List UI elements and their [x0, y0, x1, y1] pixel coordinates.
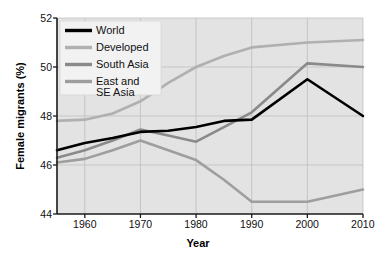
y-axis-title: Female migrants (%): [14, 62, 26, 170]
y-tick-label-44: 44: [40, 208, 52, 220]
line-chart: 44 46 48 50 52 1960 1970 1980 1990 2000 …: [0, 0, 384, 257]
y-tick-label-50: 50: [40, 61, 52, 73]
legend-label-developed: Developed: [96, 41, 149, 53]
x-axis-title: Year: [186, 237, 210, 249]
legend-label-south-asia: South Asia: [96, 58, 149, 70]
x-tick-label-1990: 1990: [240, 218, 264, 230]
y-tick-label-48: 48: [40, 110, 52, 122]
x-tick-label-1960: 1960: [73, 218, 97, 230]
x-tick-label-1980: 1980: [184, 218, 208, 230]
x-tick-label-2010: 2010: [351, 218, 375, 230]
legend-label-east-se-asia-line2: SE Asia: [96, 86, 135, 98]
chart-legend: World Developed South Asia East and SE A…: [60, 21, 161, 98]
legend-label-world: World: [96, 24, 125, 36]
y-tick-label-52: 52: [40, 12, 52, 24]
x-tick-label-2000: 2000: [296, 218, 320, 230]
chart-container: 44 46 48 50 52 1960 1970 1980 1990 2000 …: [0, 0, 384, 257]
x-tick-label-1970: 1970: [129, 218, 153, 230]
y-tick-label-46: 46: [40, 159, 52, 171]
